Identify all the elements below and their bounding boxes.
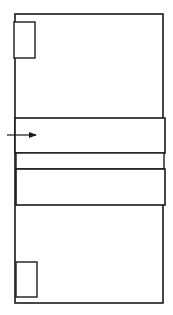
band-lower <box>16 169 165 205</box>
band-upper <box>15 118 165 153</box>
diagram-canvas <box>0 0 173 315</box>
top-small-rect <box>14 22 35 58</box>
bottom-small-rect <box>16 262 37 297</box>
band-gap <box>16 153 164 169</box>
